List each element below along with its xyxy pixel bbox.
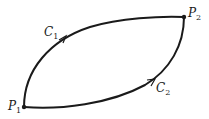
label-c2-letter: C (156, 81, 165, 95)
label-p1-letter: P (8, 99, 16, 113)
point-p1 (22, 105, 26, 109)
label-c1-letter: C (44, 25, 53, 39)
path-diagram: P1 P2 C1 C2 (0, 0, 209, 119)
label-c1: C1 (44, 26, 58, 41)
label-p2: P2 (188, 7, 201, 22)
curves-canvas (0, 0, 209, 119)
label-p2-letter: P (188, 6, 196, 20)
label-c2-subscript: 2 (165, 88, 170, 97)
label-p1: P1 (8, 100, 21, 115)
label-c1-subscript: 1 (53, 32, 58, 41)
point-p2 (182, 15, 186, 19)
label-p2-subscript: 2 (196, 13, 201, 22)
label-c2: C2 (156, 82, 170, 97)
label-p1-subscript: 1 (16, 106, 21, 115)
